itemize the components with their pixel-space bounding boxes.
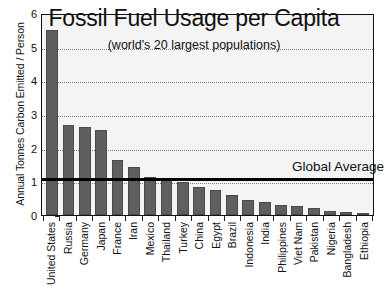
y-tick-label: 0 <box>21 210 37 222</box>
y-tick-label: 4 <box>21 75 37 87</box>
bar <box>308 208 320 215</box>
bar <box>324 211 336 215</box>
x-label-cell: Indonesia <box>240 222 256 305</box>
x-tick-mark <box>290 216 291 221</box>
bar <box>259 202 271 215</box>
x-label-cell: Pakistan <box>306 222 322 305</box>
x-label-cell: Germany <box>76 222 92 305</box>
bar <box>193 187 205 215</box>
x-tick-mark <box>208 216 209 221</box>
chart-figure: Annual Tonnes Carbon Emitted / Person 01… <box>0 0 388 305</box>
x-label-cell: Brazil <box>224 222 240 305</box>
x-tick-mark <box>257 216 258 221</box>
x-label-cell: France <box>109 222 125 305</box>
x-label-cell: Bangladesh <box>339 222 355 305</box>
x-tick-label: Turkey <box>178 222 189 254</box>
x-tick-mark <box>92 216 93 221</box>
x-tick-label: Pakistan <box>309 222 320 262</box>
chart-subtitle: (world's 20 largest populations) <box>0 38 388 52</box>
y-tick-label: 3 <box>21 109 37 121</box>
x-tick-mark <box>191 216 192 221</box>
bar <box>112 160 124 215</box>
x-tick-label: India <box>260 222 271 245</box>
y-tick-label: 2 <box>21 143 37 155</box>
x-tick-mark <box>76 216 77 221</box>
x-label-cell: Egypt <box>208 222 224 305</box>
x-tick-mark <box>356 216 357 221</box>
x-axis-tick-labels: United StatesRussiaGermanyJapanFranceIra… <box>41 222 374 305</box>
bar <box>95 130 107 215</box>
y-tick-label: 1 <box>21 176 37 188</box>
x-tick-mark <box>339 216 340 221</box>
global-average-label: Global Average <box>292 160 384 174</box>
x-label-cell: Iran <box>125 222 141 305</box>
x-tick-mark <box>142 216 143 221</box>
x-tick-mark <box>109 216 110 221</box>
x-tick-mark <box>240 216 241 221</box>
x-tick-label: Indonesia <box>243 222 254 268</box>
x-tick-label: Ethiopia <box>359 222 370 260</box>
x-tick-label: Germany <box>79 222 90 265</box>
bar <box>210 190 222 215</box>
x-tick-label: United States <box>46 222 57 285</box>
x-tick-mark <box>125 216 126 221</box>
bar <box>340 212 352 215</box>
x-tick-mark <box>273 216 274 221</box>
global-average-line <box>42 178 373 181</box>
x-tick-label: Nigeria <box>326 222 337 255</box>
bar <box>79 127 91 215</box>
bar <box>128 167 140 215</box>
x-label-cell: Russia <box>59 222 75 305</box>
x-label-cell: Nigeria <box>323 222 339 305</box>
bar <box>177 182 189 215</box>
x-tick-label: France <box>112 222 123 255</box>
x-tick-label: Viet Nam <box>293 222 304 265</box>
x-tick-mark <box>224 216 225 221</box>
x-tick-label: Brazil <box>227 222 238 248</box>
x-label-cell: Turkey <box>175 222 191 305</box>
bar <box>275 205 287 215</box>
x-tick-mark <box>323 216 324 221</box>
x-tick-label: Japan <box>95 222 106 251</box>
x-tick-label: Philippines <box>276 222 287 273</box>
x-tick-label: Bangladesh <box>342 222 353 277</box>
x-tick-mark <box>59 216 60 221</box>
x-tick-label: Thailand <box>161 222 172 262</box>
x-tick-label: Russia <box>62 222 73 254</box>
x-tick-mark <box>306 216 307 221</box>
x-label-cell: United States <box>43 222 59 305</box>
x-tick-mark <box>175 216 176 221</box>
bar <box>226 195 238 215</box>
bar <box>291 206 303 215</box>
x-label-cell: China <box>191 222 207 305</box>
x-label-cell: Viet Nam <box>290 222 306 305</box>
x-label-cell: Philippines <box>273 222 289 305</box>
x-tick-mark <box>43 216 44 221</box>
x-tick-label: China <box>194 222 205 249</box>
chart-title: Fossil Fuel Usage per Capita <box>0 5 388 32</box>
x-label-cell: Japan <box>92 222 108 305</box>
x-tick-mark <box>158 216 159 221</box>
x-tick-label: Mexico <box>145 222 156 255</box>
x-label-cell: Thailand <box>158 222 174 305</box>
bar <box>242 200 254 215</box>
x-tick-label: Iran <box>128 222 139 240</box>
bar <box>63 125 75 215</box>
bar <box>357 213 369 215</box>
x-label-cell: Ethiopia <box>356 222 372 305</box>
x-tick-mark <box>372 216 373 221</box>
bar <box>161 180 173 215</box>
bar <box>46 30 58 215</box>
bar <box>144 177 156 215</box>
x-tick-label: Egypt <box>211 222 222 249</box>
x-label-cell: India <box>257 222 273 305</box>
x-label-cell: Mexico <box>142 222 158 305</box>
